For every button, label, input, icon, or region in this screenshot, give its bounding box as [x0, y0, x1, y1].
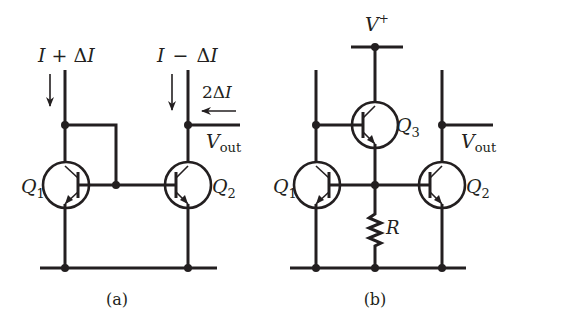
junction-dot: [312, 264, 320, 272]
resistor-r: [369, 210, 381, 268]
junction-dot: [184, 121, 192, 129]
junction-dot: [312, 121, 320, 129]
transistor-q3: [352, 102, 398, 148]
label-q1-b: Q1: [273, 175, 297, 201]
label-2-delta-i: 2ΔI: [202, 82, 232, 102]
label-vout-a: Vout: [206, 130, 242, 155]
caption-b: (b): [364, 290, 387, 309]
current-mirror-figure: I+ΔI I−ΔI 2ΔI Vout Q1 Q2 (a): [0, 0, 577, 325]
junction-dot: [371, 264, 379, 272]
junction-dot: [61, 264, 69, 272]
label-r: R: [385, 217, 400, 238]
base-node-dot: [371, 181, 379, 189]
junction-dot: [184, 264, 192, 272]
label-i-plus-delta-i: I+ΔI: [37, 44, 95, 66]
panel-a: I+ΔI I−ΔI 2ΔI Vout Q1 Q2 (a): [21, 44, 242, 309]
junction-dot: [61, 121, 69, 129]
label-q1-a: Q1: [21, 175, 45, 201]
label-q3: Q3: [396, 114, 420, 140]
label-vout-b: Vout: [461, 130, 497, 155]
label-q2-a: Q2: [212, 175, 236, 201]
base-node-dot: [112, 181, 120, 189]
junction-dot: [438, 264, 446, 272]
panel-b: V+ Q3 Vout Q1 Q2 R (b): [273, 12, 497, 309]
transistor-q2: [419, 162, 465, 208]
label-q2-b: Q2: [466, 175, 490, 201]
transistor-q2: [165, 162, 211, 208]
label-i-minus-delta-i: I−ΔI: [156, 44, 218, 66]
label-v-plus: V+: [365, 12, 389, 35]
caption-a: (a): [106, 290, 128, 309]
transistor-q1: [43, 162, 89, 208]
junction-dot: [438, 121, 446, 129]
transistor-q1: [294, 162, 340, 208]
